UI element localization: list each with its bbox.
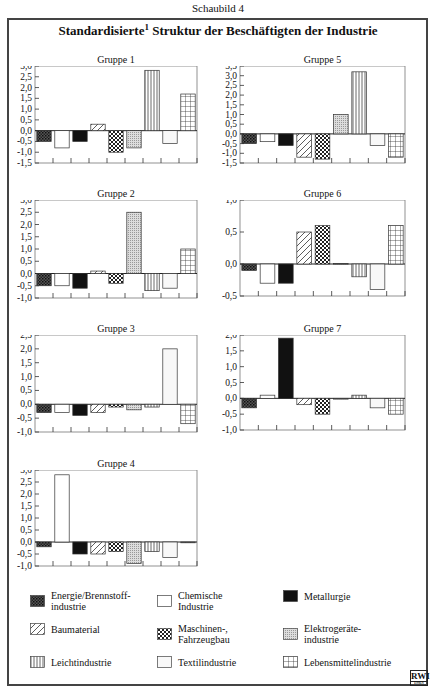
svg-text:0,0: 0,0 <box>20 399 32 409</box>
svg-text:2,5: 2,5 <box>20 335 32 340</box>
bar-elektro <box>127 404 141 410</box>
bar-chemie <box>55 131 69 148</box>
legend-item-leicht: Leichtindustrie <box>30 656 112 668</box>
bar-textil <box>370 134 385 146</box>
legend-item-lebensmittel: Lebensmittelindustrie <box>283 656 391 668</box>
legend-label: Maschinen-,Fahrzeugbau <box>178 623 230 645</box>
bar-elektro <box>127 542 141 564</box>
svg-text:1,0: 1,0 <box>20 513 32 523</box>
svg-text:1,5: 1,5 <box>20 501 32 511</box>
legend-item-chemie: ChemischeIndustrie <box>157 590 222 612</box>
bar-energie <box>242 398 257 407</box>
bar-maschinen <box>109 542 123 552</box>
bar-textil <box>370 398 385 407</box>
svg-text:-0,5: -0,5 <box>17 413 32 423</box>
svg-text:-1,0: -1,0 <box>17 147 32 157</box>
legend-label: ChemischeIndustrie <box>178 590 222 612</box>
legend-label: Energie/Brennstoff-industrie <box>51 590 131 612</box>
svg-text:-1,0: -1,0 <box>17 427 32 437</box>
legend-label: Lebensmittelindustrie <box>304 657 391 668</box>
svg-text:2,5: 2,5 <box>225 80 237 90</box>
svg-text:0,0: 0,0 <box>225 129 237 139</box>
chart-title: Gruppe 7 <box>240 323 405 334</box>
bar-maschinen <box>109 274 123 284</box>
bar-maschinen <box>315 134 330 159</box>
svg-text:1,0: 1,0 <box>20 104 32 114</box>
legend-swatch <box>157 595 172 607</box>
bar-maschinen <box>315 398 330 414</box>
legend-swatch <box>283 628 298 640</box>
title-text-post: Struktur der Beschäftigten der Industrie <box>152 23 377 38</box>
title-text-pre: Standardisierte <box>58 23 144 38</box>
svg-text:-0,5: -0,5 <box>222 291 237 301</box>
svg-text:0,5: 0,5 <box>225 119 237 129</box>
svg-text:1,5: 1,5 <box>20 232 32 242</box>
svg-text:1,0: 1,0 <box>225 110 237 120</box>
bar-maschinen <box>109 131 123 153</box>
legend-swatch <box>283 656 298 668</box>
svg-text:0,0: 0,0 <box>20 537 32 547</box>
svg-text:1,0: 1,0 <box>20 244 32 254</box>
svg-text:0,5: 0,5 <box>225 378 237 388</box>
chart-title: Gruppe 2 <box>35 188 197 199</box>
bar-lebensmittel <box>181 249 195 274</box>
legend-swatch <box>283 590 298 602</box>
bar-textil <box>163 349 177 404</box>
svg-text:1,5: 1,5 <box>20 93 32 103</box>
bar-chemie <box>260 134 275 142</box>
legend-swatch <box>157 656 172 668</box>
bar-energie <box>37 131 51 142</box>
bar-maschinen <box>315 226 330 264</box>
figure-title: Standardisierte1 Struktur der Beschäftig… <box>0 22 436 39</box>
bar-lebensmittel <box>181 404 195 423</box>
bar-chemie <box>55 274 69 286</box>
bar-elektro <box>334 115 349 134</box>
svg-text:-0,5: -0,5 <box>222 139 237 149</box>
bar-metall <box>279 338 294 398</box>
svg-text:0,0: 0,0 <box>20 269 32 279</box>
bar-bau <box>91 404 105 412</box>
legend-label: Metallurgie <box>304 591 350 602</box>
svg-text:-1,0: -1,0 <box>17 293 32 303</box>
bar-lebensmittel <box>389 134 404 157</box>
legend-swatch <box>30 656 45 668</box>
svg-text:-0,5: -0,5 <box>17 281 32 291</box>
chart-title: Gruppe 1 <box>35 54 197 65</box>
bar-metall <box>73 404 87 415</box>
legend-swatch <box>157 628 172 640</box>
bar-textil <box>163 131 177 144</box>
bar-chemie <box>55 475 69 542</box>
bar-leicht <box>145 542 159 552</box>
svg-text:2,5: 2,5 <box>20 72 32 82</box>
bar-metall <box>279 134 294 146</box>
legend-swatch <box>30 595 45 607</box>
svg-text:1,0: 1,0 <box>20 372 32 382</box>
bar-energie <box>37 542 51 547</box>
bar-bau <box>91 271 105 273</box>
svg-text:-1,5: -1,5 <box>17 158 32 168</box>
rwi-logo: RWIESSEN <box>410 670 428 686</box>
svg-text:3,0: 3,0 <box>225 71 237 81</box>
svg-text:1,0: 1,0 <box>225 200 237 205</box>
bar-energie <box>37 274 51 286</box>
bar-metall <box>73 274 87 289</box>
bar-textil <box>163 542 177 558</box>
bar-energie <box>37 404 51 412</box>
svg-text:1,0: 1,0 <box>225 362 237 372</box>
bar-metall <box>73 131 87 142</box>
bar-bau <box>91 542 105 554</box>
svg-text:2,0: 2,0 <box>225 335 237 340</box>
bar-leicht <box>145 274 159 291</box>
svg-text:-0,5: -0,5 <box>17 549 32 559</box>
svg-text:0,5: 0,5 <box>20 525 32 535</box>
svg-text:1,5: 1,5 <box>20 358 32 368</box>
bar-metall <box>73 542 87 554</box>
legend-label: Textilindustrie <box>178 657 236 668</box>
svg-text:0,0: 0,0 <box>225 259 237 269</box>
svg-text:3,0: 3,0 <box>20 470 32 475</box>
svg-text:0,5: 0,5 <box>20 385 32 395</box>
legend-label: Leichtindustrie <box>51 657 112 668</box>
legend-swatch <box>30 623 45 635</box>
svg-text:-1,0: -1,0 <box>17 561 32 571</box>
legend-item-textil: Textilindustrie <box>157 656 236 668</box>
